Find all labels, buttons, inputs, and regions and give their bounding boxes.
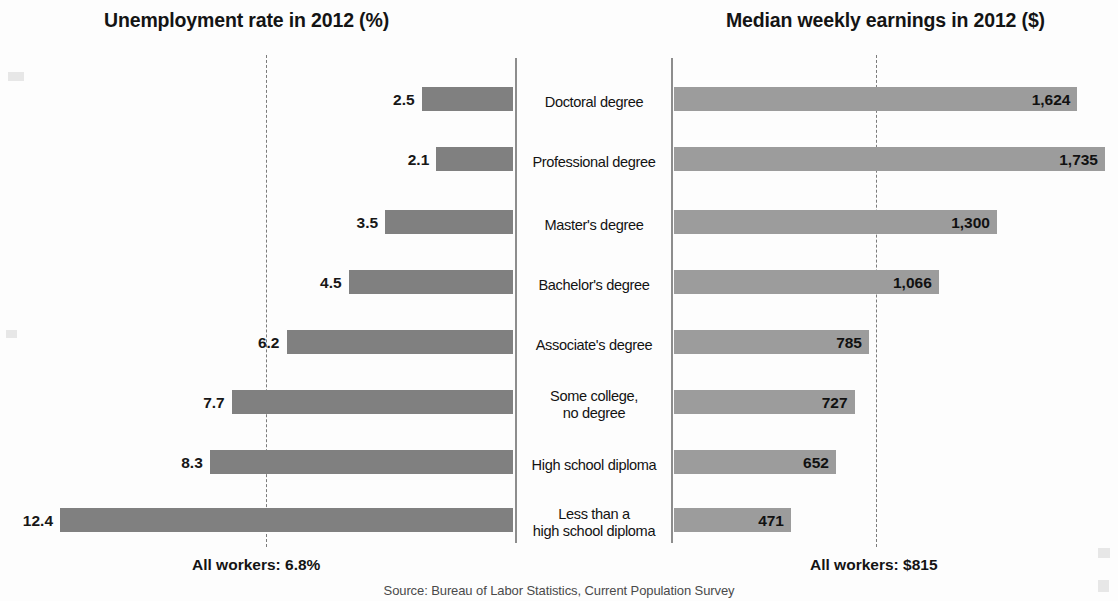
- all-workers-earnings-label: All workers: $815: [810, 556, 938, 574]
- category-label: Some college,no degree: [518, 381, 670, 429]
- category-label: Less than ahigh school diploma: [518, 499, 670, 547]
- bar-row: 4.51,066Bachelor's degree: [0, 255, 1118, 315]
- category-label: High school diploma: [518, 441, 670, 489]
- bar-earnings[interactable]: [674, 147, 1105, 171]
- category-label: Doctoral degree: [518, 78, 670, 126]
- value-label-unemployment: 3.5: [323, 210, 378, 234]
- bar-unemployment[interactable]: [385, 210, 513, 234]
- bar-unemployment[interactable]: [436, 147, 513, 171]
- bar-unemployment[interactable]: [60, 508, 513, 532]
- bar-row: 2.51,624Doctoral degree: [0, 72, 1118, 132]
- value-label-unemployment: 2.5: [360, 87, 415, 111]
- value-label-unemployment: 7.7: [170, 390, 225, 414]
- bar-row: 12.4471Less than ahigh school diploma: [0, 493, 1118, 553]
- all-workers-unemployment-label: All workers: 6.8%: [192, 556, 320, 574]
- value-label-unemployment: 4.5: [287, 270, 342, 294]
- plot-area: 2.51,624Doctoral degree2.11,735Professio…: [0, 55, 1118, 545]
- bar-row: 6.2785Associate's degree: [0, 315, 1118, 375]
- value-label-earnings: 727: [793, 390, 848, 414]
- bar-unemployment[interactable]: [232, 390, 513, 414]
- chart-canvas: Unemployment rate in 2012 (%) Median wee…: [0, 0, 1118, 601]
- bar-unemployment[interactable]: [422, 87, 513, 111]
- value-label-earnings: 471: [729, 508, 784, 532]
- chart-title-left: Unemployment rate in 2012 (%): [104, 9, 389, 32]
- bar-row: 7.7727Some college,no degree: [0, 375, 1118, 435]
- value-label-earnings: 1,624: [1015, 87, 1070, 111]
- value-label-earnings: 1,735: [1043, 147, 1098, 171]
- value-label-unemployment: 8.3: [148, 450, 203, 474]
- value-label-earnings: 652: [774, 450, 829, 474]
- bar-row: 2.11,735Professional degree: [0, 132, 1118, 192]
- bar-row: 8.3652High school diploma: [0, 435, 1118, 495]
- value-label-unemployment: 6.2: [225, 330, 280, 354]
- value-label-earnings: 1,300: [935, 210, 990, 234]
- bar-unemployment[interactable]: [287, 330, 514, 354]
- chart-title-right: Median weekly earnings in 2012 ($): [726, 9, 1045, 32]
- category-label: Professional degree: [518, 138, 670, 186]
- bar-row: 3.51,300Master's degree: [0, 195, 1118, 255]
- value-label-earnings: 1,066: [877, 270, 932, 294]
- category-label: Bachelor's degree: [518, 261, 670, 309]
- value-label-earnings: 785: [807, 330, 862, 354]
- category-label: Associate's degree: [518, 321, 670, 369]
- source-note: Source: Bureau of Labor Statistics, Curr…: [0, 583, 1118, 598]
- category-label: Master's degree: [518, 201, 670, 249]
- bar-unemployment[interactable]: [349, 270, 513, 294]
- value-label-unemployment: 2.1: [374, 147, 429, 171]
- value-label-unemployment: 12.4: [0, 508, 53, 532]
- bar-unemployment[interactable]: [210, 450, 513, 474]
